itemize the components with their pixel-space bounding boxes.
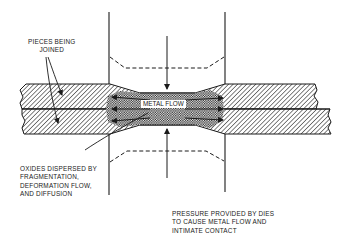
pressure-label-line-3: INTIMATE CONTACT [172,227,274,235]
oxides-label-line-3: DEFORMATION FLOW, [20,182,97,190]
oxides-label-line-1: OXIDES DISPERSED BY [20,165,97,173]
welding-diagram [0,0,349,240]
pressure-label: PRESSURE PROVIDED BY DIES TO CAUSE METAL… [172,210,274,235]
oxides-label-line-2: FRAGMENTATION, [20,173,97,181]
metal-flow-label: METAL FLOW [141,100,186,108]
pressure-label-line-2: TO CAUSE METAL FLOW AND [172,218,274,226]
pieces-label-line-2: JOINED [28,46,76,54]
pieces-label: PIECES BEING JOINED [28,38,76,55]
oxides-label: OXIDES DISPERSED BY FRAGMENTATION, DEFOR… [20,165,97,198]
pieces-label-line-1: PIECES BEING [28,38,76,46]
pressure-label-line-1: PRESSURE PROVIDED BY DIES [172,210,274,218]
oxides-label-line-4: AND DIFFUSION [20,190,97,198]
